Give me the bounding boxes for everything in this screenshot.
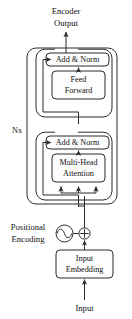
sine-wave-icon — [56, 225, 73, 242]
encoder-output-label-line1: Encoder — [52, 6, 81, 16]
diagram-canvas: Encoder Output Add & Norm Feed Forward A… — [0, 0, 132, 319]
add-norm-top-label: Add & Norm — [56, 55, 100, 64]
feed-forward-label-line2: Forward — [65, 86, 93, 95]
positional-encoding-label-line2: Encoding — [12, 234, 46, 244]
attention-value-arrow — [79, 187, 97, 194]
feed-forward-label-line1: Feed — [71, 75, 87, 84]
multi-head-attention-label-line1: Multi-Head — [59, 158, 97, 167]
multi-head-attention-label-line2: Attention — [63, 169, 94, 178]
encoder-output-label-line2: Output — [54, 18, 78, 28]
input-label: Input — [75, 303, 94, 313]
attention-query-arrow — [61, 187, 79, 194]
add-norm-bottom-label: Add & Norm — [56, 138, 100, 147]
plus-circle-icon — [79, 228, 90, 239]
repeat-count-label: Nx — [12, 126, 22, 135]
positional-encoding-label-line1: Positional — [11, 222, 46, 232]
input-embedding-label-line2: Embedding — [66, 265, 104, 274]
input-embedding-label-line1: Input — [76, 254, 94, 263]
transformer-encoder-diagram: Encoder Output Add & Norm Feed Forward A… — [0, 0, 132, 319]
